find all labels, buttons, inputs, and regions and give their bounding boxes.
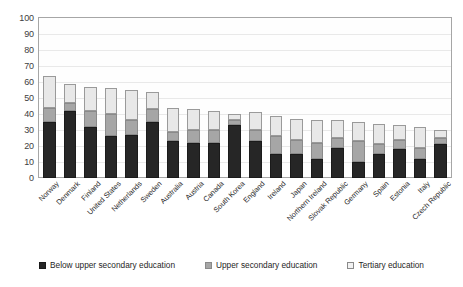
legend-item[interactable]: Below upper secondary education (39, 260, 175, 270)
bar-group[interactable] (187, 109, 200, 178)
bar-group[interactable] (105, 88, 118, 178)
y-axis-tick: 10 (0, 158, 34, 167)
bar-segment[interactable] (290, 119, 303, 140)
bar-segment[interactable] (146, 92, 159, 110)
bar-segment[interactable] (249, 112, 262, 130)
bar-segment[interactable] (208, 143, 221, 178)
bar-segment[interactable] (311, 120, 324, 142)
bar-segment[interactable] (434, 144, 447, 178)
bar-group[interactable] (64, 84, 77, 178)
legend-item-label: Tertiary education (358, 260, 424, 270)
y-axis-tick: 0 (0, 174, 34, 183)
bar-segment[interactable] (290, 140, 303, 154)
bar-segment[interactable] (167, 141, 180, 178)
y-axis: 1009080706050403020100 (0, 17, 34, 178)
bar-segment[interactable] (311, 143, 324, 159)
bar-segment[interactable] (146, 122, 159, 178)
y-axis-tick: 90 (0, 30, 34, 39)
bar-segment[interactable] (84, 87, 97, 111)
chart-legend: Below upper secondary educationUpper sec… (0, 256, 463, 274)
bar-segment[interactable] (331, 138, 344, 148)
y-axis-tick: 60 (0, 78, 34, 87)
bar-segment[interactable] (270, 136, 283, 154)
bar-group[interactable] (393, 125, 406, 178)
bar-segment[interactable] (125, 90, 138, 120)
bar-segment[interactable] (187, 130, 200, 143)
bar-segment[interactable] (331, 148, 344, 178)
y-axis-tick: 80 (0, 46, 34, 55)
bar-group[interactable] (331, 120, 344, 178)
x-axis-label: Ireland (266, 180, 287, 201)
bar-segment[interactable] (105, 88, 118, 114)
legend-item[interactable]: Tertiary education (347, 260, 424, 270)
bar-segment[interactable] (373, 124, 386, 145)
legend-item-label: Below upper secondary education (50, 260, 175, 270)
bar-segment[interactable] (43, 122, 56, 178)
y-axis-tick: 30 (0, 126, 34, 135)
bar-segment[interactable] (393, 149, 406, 178)
bar-segment[interactable] (167, 108, 180, 132)
bar-segment[interactable] (167, 132, 180, 142)
bar-segment[interactable] (414, 127, 427, 148)
bar-segment[interactable] (187, 143, 200, 178)
bar-segment[interactable] (105, 114, 118, 136)
bar-segment[interactable] (125, 120, 138, 134)
bar-segment[interactable] (414, 148, 427, 159)
bar-segment[interactable] (393, 125, 406, 139)
bar-group[interactable] (290, 119, 303, 178)
bar-group[interactable] (208, 111, 221, 178)
legend-item[interactable]: Upper secondary education (205, 260, 317, 270)
bar-segment[interactable] (43, 108, 56, 122)
bar-segment[interactable] (352, 162, 365, 178)
legend-swatch-light (347, 262, 354, 269)
x-axis: NorwayDenmarkFinlandUnited StatesNetherl… (39, 180, 451, 242)
y-axis-tick: 70 (0, 62, 34, 71)
bar-segment[interactable] (64, 111, 77, 178)
bar-segment[interactable] (208, 130, 221, 143)
bar-segment[interactable] (228, 114, 241, 120)
bar-segment[interactable] (373, 144, 386, 154)
bars-layer (39, 18, 451, 178)
y-axis-tick: 40 (0, 110, 34, 119)
bar-segment[interactable] (64, 84, 77, 103)
bar-segment[interactable] (228, 125, 241, 178)
bar-segment[interactable] (146, 109, 159, 122)
bar-segment[interactable] (105, 136, 118, 178)
bar-segment[interactable] (249, 141, 262, 178)
bar-segment[interactable] (311, 159, 324, 178)
bar-segment[interactable] (125, 135, 138, 178)
bar-segment[interactable] (187, 109, 200, 130)
bar-segment[interactable] (373, 154, 386, 178)
bar-group[interactable] (249, 112, 262, 178)
bar-group[interactable] (414, 127, 427, 178)
bar-segment[interactable] (352, 122, 365, 141)
bar-segment[interactable] (270, 116, 283, 137)
bar-group[interactable] (311, 120, 324, 178)
bar-group[interactable] (84, 87, 97, 178)
bar-segment[interactable] (249, 130, 262, 141)
bar-segment[interactable] (228, 120, 241, 125)
bar-group[interactable] (146, 92, 159, 178)
bar-segment[interactable] (414, 159, 427, 178)
bar-segment[interactable] (434, 138, 447, 144)
bar-group[interactable] (434, 130, 447, 178)
bar-segment[interactable] (290, 154, 303, 178)
bar-segment[interactable] (84, 111, 97, 127)
bar-group[interactable] (125, 90, 138, 178)
bar-group[interactable] (270, 116, 283, 178)
bar-segment[interactable] (84, 127, 97, 178)
bar-segment[interactable] (208, 111, 221, 130)
bar-segment[interactable] (393, 140, 406, 150)
bar-segment[interactable] (43, 76, 56, 108)
bar-segment[interactable] (434, 130, 447, 138)
y-axis-tick: 100 (0, 14, 34, 23)
bar-segment[interactable] (331, 120, 344, 138)
bar-group[interactable] (352, 122, 365, 178)
bar-segment[interactable] (270, 154, 283, 178)
bar-segment[interactable] (352, 141, 365, 162)
bar-group[interactable] (373, 124, 386, 178)
bar-group[interactable] (228, 114, 241, 178)
bar-group[interactable] (43, 76, 56, 178)
bar-group[interactable] (167, 108, 180, 178)
bar-segment[interactable] (64, 103, 77, 111)
